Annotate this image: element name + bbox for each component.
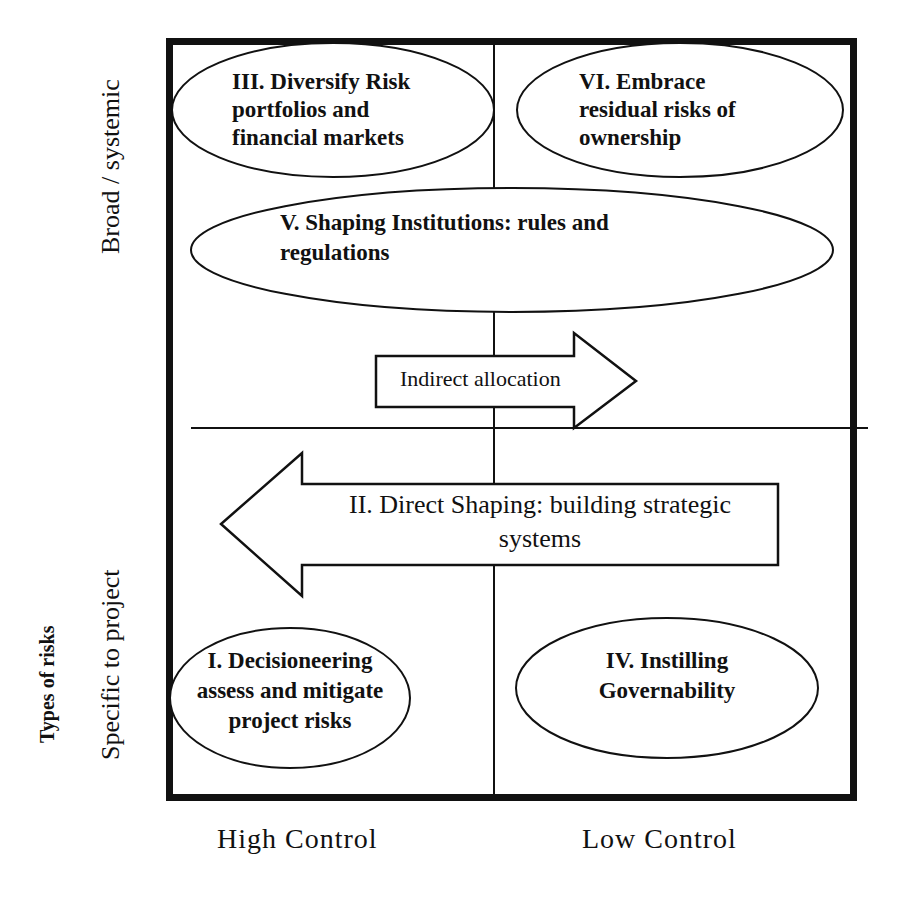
x-left-label: High Control bbox=[217, 822, 378, 856]
ellipse-VI-line2: residual risks of bbox=[579, 96, 736, 124]
ellipse-III-line2: portfolios and bbox=[232, 96, 410, 124]
ellipse-VI-line3: ownership bbox=[579, 124, 736, 152]
ellipse-V-line2: regulations bbox=[280, 238, 609, 268]
ellipse-I-label: I. Decisioneering assess and mitigate pr… bbox=[175, 646, 405, 736]
y-axis-title: Types of risks bbox=[36, 626, 59, 743]
x-right-label: Low Control bbox=[582, 822, 737, 856]
risk-strategy-matrix: III. Diversify Risk portfolios and finan… bbox=[0, 0, 904, 898]
ellipse-I-line1: I. Decisioneering bbox=[175, 646, 405, 676]
ellipse-I-line2: assess and mitigate bbox=[175, 676, 405, 706]
ellipse-III-line1: III. Diversify Risk bbox=[232, 68, 410, 96]
ellipse-VI-line1: VI. Embrace bbox=[579, 68, 736, 96]
ellipse-V-label: V. Shaping Institutions: rules and regul… bbox=[280, 208, 609, 268]
ellipse-VI-label: VI. Embrace residual risks of ownership bbox=[579, 68, 736, 152]
ellipse-III-line3: financial markets bbox=[232, 124, 410, 152]
direct-shaping-label: II. Direct Shaping: building strategic s… bbox=[290, 488, 790, 556]
ellipse-IV-line1: IV. Instilling bbox=[567, 646, 767, 676]
y-bottom-label: Specific to project bbox=[96, 569, 126, 760]
matrix-graphic bbox=[0, 0, 904, 898]
ellipse-V-line1: V. Shaping Institutions: rules and bbox=[280, 208, 609, 238]
ellipse-IV-line2: Governability bbox=[567, 676, 767, 706]
ellipse-III-label: III. Diversify Risk portfolios and finan… bbox=[232, 68, 410, 152]
direct-shaping-line2: systems bbox=[290, 522, 790, 556]
direct-shaping-line1: II. Direct Shaping: building strategic bbox=[290, 488, 790, 522]
ellipse-IV-label: IV. Instilling Governability bbox=[567, 646, 767, 706]
indirect-allocation-label: Indirect allocation bbox=[400, 366, 561, 392]
ellipse-I-line3: project risks bbox=[175, 706, 405, 736]
y-top-label: Broad / systemic bbox=[96, 79, 126, 254]
